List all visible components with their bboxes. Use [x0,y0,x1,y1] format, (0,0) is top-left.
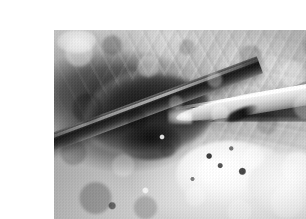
page-root [0,0,306,219]
vignette-layer [54,30,306,219]
surgical-photograph [54,30,306,219]
